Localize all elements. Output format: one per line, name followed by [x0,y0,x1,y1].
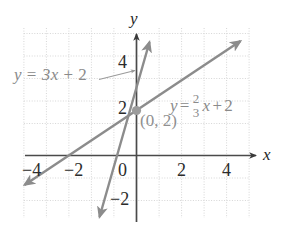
point-label-0-2: (0, 2) [140,112,177,129]
equation-label-steep: y = 3x + 2 [14,66,87,83]
fraction-numerator: 2 [193,92,200,106]
fraction-two-thirds: 2 3 [193,92,200,119]
x-tick-label--4: −4 [22,161,41,179]
y-axis-label: y [130,10,138,27]
x-tick-label--2: −2 [64,161,83,179]
x-tick-label-0: 0 [118,161,127,179]
eq-shallow-intercept: 2 [224,97,233,114]
eq-shallow-equals: = [180,97,190,114]
leader-arrow-steep-line [99,71,135,80]
eq-steep-lhs: y [14,65,22,84]
eq-steep-var: x [51,65,59,84]
y-tick-label-2: 2 [118,99,127,117]
eq-steep-plus: + [63,65,73,84]
y-tick-label-4: 4 [118,53,127,71]
equation-label-shallow: y = 2 3 x + 2 [170,92,233,119]
eq-shallow-var: x [203,97,211,114]
graph-figure: y = 3x + 2 y = 2 3 x + 2 (0, 2) −4 −2 0 … [0,0,288,226]
eq-steep-intercept: 2 [78,65,87,84]
fraction-denominator: 3 [193,106,200,120]
eq-shallow-plus: + [212,97,222,114]
y-tick-label--2: −2 [110,190,129,208]
x-axis-label: x [263,146,271,163]
x-tick-label-2: 2 [177,161,186,179]
eq-steep-slope: 3 [42,65,51,84]
x-tick-label-4: 4 [222,161,231,179]
eq-steep-equals: = [27,65,37,84]
